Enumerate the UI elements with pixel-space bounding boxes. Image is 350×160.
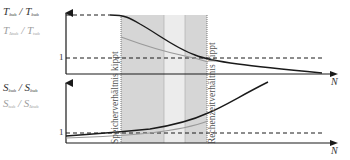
- top-y-label-primary: Tδsub / Tδsub: [3, 6, 39, 17]
- right-boundary-annotation: Rechenzeitverhältnis kippt: [208, 42, 218, 144]
- top-y-tick-one: 1: [59, 53, 64, 62]
- bottom-y-label-primary: Sδsub / Sδsub: [3, 82, 37, 93]
- top-x-axis-label: N: [331, 77, 338, 87]
- left-boundary-annotation: Speicherverhältnis kippt: [111, 51, 121, 144]
- diagram-canvas: Tδsub / Tδsub TΔtsub / Ttsub 1 N Sδsub /…: [0, 0, 350, 160]
- bottom-x-axis-label: N: [331, 146, 338, 156]
- top-y-label-secondary: TΔtsub / Ttsub: [3, 25, 40, 36]
- shaded-region: [121, 15, 207, 143]
- bottom-y-label-secondary: Stsub / SΔtsub: [3, 98, 38, 109]
- diagram-svg: [0, 0, 350, 160]
- bottom-y-tick-one: 1: [59, 128, 64, 137]
